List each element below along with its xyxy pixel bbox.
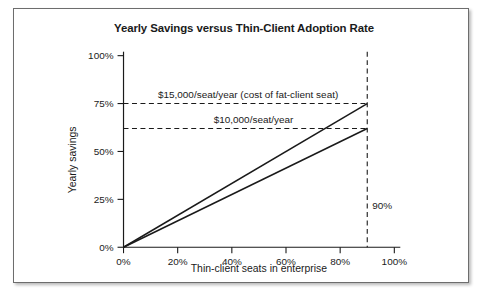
series-lines-group xyxy=(124,104,368,248)
y-tick-label: 75% xyxy=(94,98,114,109)
x-tick-label: 20% xyxy=(168,256,188,267)
x-tick-label: 60% xyxy=(276,256,296,267)
y-tick-label: 100% xyxy=(88,50,114,61)
y-tick-label: 25% xyxy=(94,194,114,205)
annotations-group: $15,000/seat/year (cost of fat-client se… xyxy=(158,89,392,211)
chart-figure-frame: Yearly Savings versus Thin-Client Adopti… xyxy=(13,8,469,283)
y-axis-title: Yearly savings xyxy=(67,127,78,194)
y-tick-label: 0% xyxy=(99,242,114,253)
x-tick-label: 100% xyxy=(382,256,408,267)
annotation-adoption-rate-marker: 90% xyxy=(372,200,392,211)
x-axis-title: Thin-client seats in enterprise xyxy=(191,263,328,274)
annotation-cost-of-fat-client-seat: $15,000/seat/year (cost of fat-client se… xyxy=(158,89,338,100)
series-line-1 xyxy=(124,104,368,248)
chart-title: Yearly Savings versus Thin-Client Adopti… xyxy=(114,22,374,34)
x-tick-label: 0% xyxy=(116,256,131,267)
y-axis-group: 0%25%50%75%100% xyxy=(88,50,123,253)
annotation-ten-thousand-per-seat: $10,000/seat/year xyxy=(214,114,294,125)
y-tick-label: 50% xyxy=(94,146,114,157)
x-tick-label: 80% xyxy=(330,256,350,267)
series-line-2 xyxy=(124,128,368,247)
yearly-savings-line-chart: Yearly Savings versus Thin-Client Adopti… xyxy=(14,9,468,282)
reference-lines-group xyxy=(124,52,368,248)
y-axis-ticks: 0%25%50%75%100% xyxy=(88,50,123,253)
x-tick-label: 40% xyxy=(222,256,242,267)
